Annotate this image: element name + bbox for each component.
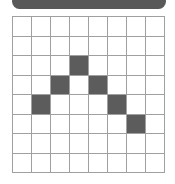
grid-cell-r5-c2[interactable]	[51, 115, 70, 135]
grid-cell-r2-c2[interactable]	[51, 56, 70, 76]
grid-cell-r7-c5[interactable]	[108, 154, 127, 174]
grid-cell-r1-c3[interactable]	[70, 37, 89, 57]
grid-cell-r4-c2[interactable]	[51, 95, 70, 115]
grid-cell-r6-c4[interactable]	[89, 134, 108, 154]
grid-cell-r5-c4[interactable]	[89, 115, 108, 135]
grid-cell-r7-c2[interactable]	[51, 154, 70, 174]
pixel-grid	[12, 16, 165, 173]
grid-cell-r0-c7[interactable]	[146, 17, 165, 37]
grid-cell-r0-c0[interactable]	[13, 17, 32, 37]
grid-cell-r7-c0[interactable]	[13, 154, 32, 174]
grid-cell-r7-c1[interactable]	[32, 154, 51, 174]
grid-cell-r5-c6[interactable]	[127, 115, 146, 135]
grid-cell-r2-c0[interactable]	[13, 56, 32, 76]
grid-cell-r5-c3[interactable]	[70, 115, 89, 135]
grid-cell-r2-c5[interactable]	[108, 56, 127, 76]
grid-cell-r7-c6[interactable]	[127, 154, 146, 174]
grid-cell-r0-c2[interactable]	[51, 17, 70, 37]
grid-cell-r5-c7[interactable]	[146, 115, 165, 135]
grid-cell-r3-c0[interactable]	[13, 76, 32, 96]
grid-cell-r7-c7[interactable]	[146, 154, 165, 174]
grid-cell-r7-c3[interactable]	[70, 154, 89, 174]
grid-cell-r2-c3[interactable]	[70, 56, 89, 76]
grid-cell-r0-c4[interactable]	[89, 17, 108, 37]
grid-cell-r3-c3[interactable]	[70, 76, 89, 96]
grid-cell-r1-c1[interactable]	[32, 37, 51, 57]
grid-cell-r6-c3[interactable]	[70, 134, 89, 154]
grid-cell-r6-c1[interactable]	[32, 134, 51, 154]
grid-cell-r4-c0[interactable]	[13, 95, 32, 115]
grid-cell-r3-c6[interactable]	[127, 76, 146, 96]
grid-cell-r0-c3[interactable]	[70, 17, 89, 37]
grid-cell-r4-c7[interactable]	[146, 95, 165, 115]
grid-cell-r1-c7[interactable]	[146, 37, 165, 57]
grid-cell-r2-c6[interactable]	[127, 56, 146, 76]
grid-cell-r1-c0[interactable]	[13, 37, 32, 57]
grid-cell-r6-c7[interactable]	[146, 134, 165, 154]
grid-cell-r4-c4[interactable]	[89, 95, 108, 115]
grid-cell-r6-c2[interactable]	[51, 134, 70, 154]
grid-cell-r3-c4[interactable]	[89, 76, 108, 96]
grid-cell-r5-c1[interactable]	[32, 115, 51, 135]
grid-cell-r4-c1[interactable]	[32, 95, 51, 115]
grid-cell-r1-c2[interactable]	[51, 37, 70, 57]
grid-cell-r2-c4[interactable]	[89, 56, 108, 76]
grid-cell-r0-c5[interactable]	[108, 17, 127, 37]
grid-cell-r4-c3[interactable]	[70, 95, 89, 115]
grid-cell-r3-c1[interactable]	[32, 76, 51, 96]
grid-cell-r6-c0[interactable]	[13, 134, 32, 154]
grid-cell-r5-c0[interactable]	[13, 115, 32, 135]
grid-cell-r2-c7[interactable]	[146, 56, 165, 76]
grid-cell-r3-c5[interactable]	[108, 76, 127, 96]
grid-cell-r3-c7[interactable]	[146, 76, 165, 96]
top-bar	[12, 0, 166, 9]
grid-cell-r6-c6[interactable]	[127, 134, 146, 154]
grid-cell-r1-c4[interactable]	[89, 37, 108, 57]
grid-cell-r7-c4[interactable]	[89, 154, 108, 174]
grid-cell-r3-c2[interactable]	[51, 76, 70, 96]
grid-cell-r1-c6[interactable]	[127, 37, 146, 57]
grid-cell-r4-c5[interactable]	[108, 95, 127, 115]
grid-cell-r4-c6[interactable]	[127, 95, 146, 115]
grid-cell-r2-c1[interactable]	[32, 56, 51, 76]
grid-cell-r0-c1[interactable]	[32, 17, 51, 37]
grid-cell-r5-c5[interactable]	[108, 115, 127, 135]
grid-cell-r0-c6[interactable]	[127, 17, 146, 37]
grid-cell-r1-c5[interactable]	[108, 37, 127, 57]
grid-cell-r6-c5[interactable]	[108, 134, 127, 154]
